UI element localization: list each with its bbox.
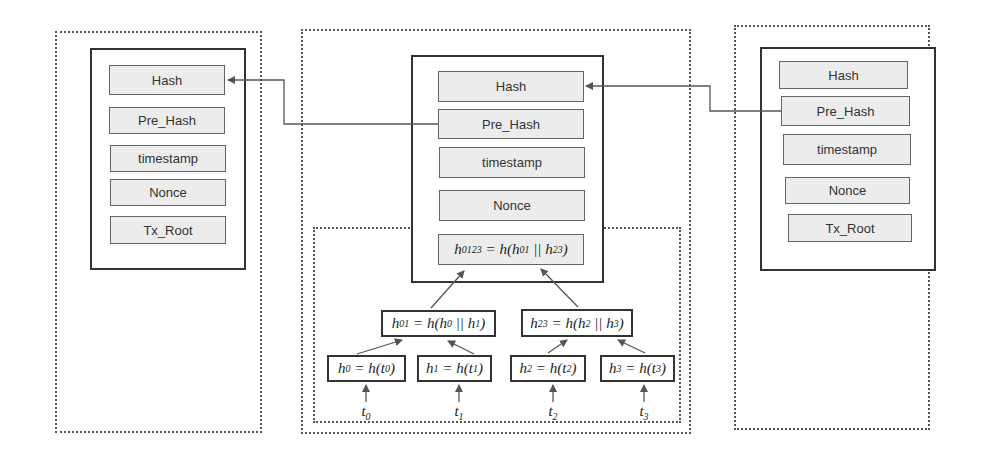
t2-sub: 2 [553, 411, 558, 422]
merkle-leaf-h3: h3 = h(t3) [600, 355, 675, 382]
h23-lhs-sub: 23 [538, 318, 548, 329]
h3-lhs: h [609, 360, 617, 377]
current-nonce-field: Nonce [439, 190, 585, 221]
transaction-t3: t3 [634, 403, 654, 422]
h01-b: h [468, 315, 476, 332]
h0-close: ) [390, 360, 395, 377]
next-timestamp-field: timestamp [783, 134, 911, 165]
h01-close: ) [480, 315, 485, 332]
next-hash-field: Hash [779, 61, 908, 89]
h01-a: h [439, 315, 447, 332]
prev-txroot-field: Tx_Root [110, 216, 226, 244]
prev-hash-field: Hash [109, 65, 225, 95]
transaction-t1: t1 [449, 403, 469, 422]
root-b: h [545, 241, 553, 258]
h1-close: ) [478, 360, 483, 377]
next-prehash-field: Pre_Hash [781, 96, 910, 126]
root-b-sub: 23 [553, 244, 563, 255]
h23-b: h [606, 315, 614, 332]
h2-lhs: h [520, 360, 528, 377]
prev-prehash-field: Pre_Hash [109, 107, 225, 134]
transaction-t2: t2 [543, 403, 563, 422]
next-txroot-field: Tx_Root [788, 214, 912, 242]
merkle-leaf-h2: h2 = h(t2) [510, 355, 586, 382]
transaction-t0: t0 [356, 403, 376, 422]
merkle-leaf-h1: h1 = h(t1) [417, 355, 492, 382]
root-sep: || [529, 241, 545, 258]
t3-sub: 3 [644, 411, 649, 422]
h3-eq: = h( [622, 360, 652, 377]
root-lhs: h [454, 241, 462, 258]
merkle-leaf-h0: h0 = h(t0) [327, 355, 406, 382]
prev-timestamp-field: timestamp [110, 145, 226, 172]
root-a-sub: 01 [519, 244, 529, 255]
root-lhs-sub: 0123 [462, 244, 482, 255]
h01-lhs: h [392, 315, 400, 332]
root-a: h [512, 241, 520, 258]
t1-sub: 1 [459, 411, 464, 422]
h0-eq: = h( [351, 360, 381, 377]
h01-sep: || [452, 315, 468, 332]
h3-close: ) [661, 360, 666, 377]
h1-eq: = h( [439, 360, 469, 377]
h23-close: ) [619, 315, 624, 332]
h23-lhs: h [530, 315, 538, 332]
h2-eq: = h( [532, 360, 562, 377]
current-prehash-field: Pre_Hash [438, 109, 584, 139]
h23-a: h [578, 315, 586, 332]
root-close: ) [563, 241, 568, 258]
h1-lhs: h [426, 360, 434, 377]
h01-eq: = h( [409, 315, 439, 332]
h01-lhs-sub: 01 [399, 318, 409, 329]
prev-nonce-field: Nonce [110, 179, 226, 206]
merkle-node-h23: h23 = h(h2 || h3) [521, 309, 633, 337]
next-nonce-field: Nonce [785, 177, 910, 204]
root-eq: = h( [482, 241, 512, 258]
h2-close: ) [571, 360, 576, 377]
current-timestamp-field: timestamp [439, 147, 585, 178]
t0-sub: 0 [366, 411, 371, 422]
current-hash-field: Hash [438, 71, 584, 102]
h23-eq: = h( [548, 315, 578, 332]
merkle-node-h01: h01 = h(h0 || h1) [381, 310, 496, 337]
h23-sep: || [590, 315, 606, 332]
h0-lhs: h [338, 360, 346, 377]
merkle-root-node: h0123 = h(h01 || h23) [438, 234, 584, 265]
